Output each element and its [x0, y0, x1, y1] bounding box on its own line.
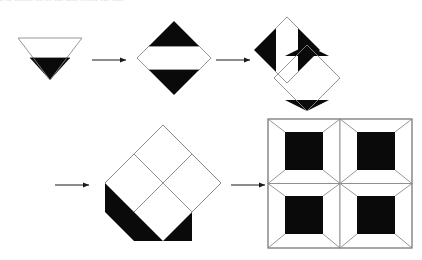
- quilt-cell-inner-black-square: [285, 132, 323, 170]
- step-5-square-quilt-grid: [268, 119, 412, 248]
- step-4-four-diamond-rosette: [105, 125, 221, 241]
- lower-diamond-black-bottom-triangle: [285, 100, 329, 111]
- upper-diamond-black-left-triangle: [254, 28, 276, 72]
- quilt-cell-inner-black-square: [357, 196, 395, 234]
- quilt-cell-top-right: [340, 119, 412, 184]
- pattern-construction-diagram: [0, 0, 422, 260]
- quilt-cell-top-left: [268, 119, 340, 184]
- step-3-two-overlapping-diamonds: [254, 17, 340, 111]
- step-2-single-diamond: [137, 21, 211, 95]
- quilt-cell-bottom-left: [268, 184, 340, 249]
- quilt-cell-inner-black-square: [285, 196, 323, 234]
- quilt-cell-bottom-right: [340, 184, 412, 249]
- quilt-cell-inner-black-square: [357, 132, 395, 170]
- lower-diamond-black-top-triangle: [285, 45, 329, 56]
- diamond-black-top-triangle: [149, 21, 199, 46]
- diamond-black-bottom-triangle: [149, 70, 199, 95]
- step-1-half-filled-triangle: [18, 38, 82, 80]
